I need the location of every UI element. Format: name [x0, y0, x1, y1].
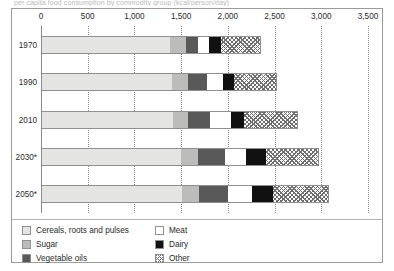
x-tick-label: 2,500: [264, 12, 285, 21]
bar-segment-veg: [199, 185, 228, 203]
legend-label: Dairy: [169, 240, 188, 249]
legend-swatch-other: [155, 254, 164, 263]
y-category-label: 1990: [19, 78, 37, 87]
y-category-label: 2030*: [16, 152, 37, 161]
legend-column-right: MeatDairyOther: [155, 224, 189, 266]
clipped-title: per capita food consumption by commodity…: [14, 0, 244, 6]
bar-segment-other: [273, 185, 329, 203]
bar-segment-dairy: [231, 111, 245, 129]
bar-segment-meat: [198, 36, 209, 54]
legend-item: Other: [155, 252, 189, 265]
x-tick-label: 1,000: [124, 12, 145, 21]
bar-segment-other: [234, 73, 277, 91]
legend-item: Meat: [155, 224, 189, 237]
bar-row: [42, 185, 369, 203]
bar-row: [42, 36, 369, 54]
legend-label: Other: [169, 254, 189, 263]
bar-segment-veg: [186, 36, 198, 54]
bar-segment-other: [266, 148, 319, 166]
bar-segment-cereals: [42, 148, 181, 166]
bar-row: [42, 111, 369, 129]
legend-swatch-cereals: [22, 226, 31, 235]
bar-segment-veg: [188, 73, 207, 91]
x-tick-label: 2,000: [218, 12, 239, 21]
bar-segment-sugar: [182, 185, 199, 203]
bar-segment-meat: [228, 185, 251, 203]
y-category-label: 1970: [19, 40, 37, 49]
x-tick-label: 3,000: [311, 12, 332, 21]
x-tick-label: 500: [81, 12, 95, 21]
bar-segment-dairy: [223, 73, 234, 91]
bar-segment-sugar: [170, 36, 186, 54]
legend-label: Sugar: [36, 240, 58, 249]
legend-swatch-veg: [22, 254, 31, 263]
bar-segment-dairy: [246, 148, 266, 166]
legend-swatch-meat: [155, 226, 164, 235]
bar-segment-cereals: [42, 36, 170, 54]
legend-item: Dairy: [155, 238, 189, 251]
bar-segment-veg: [198, 148, 225, 166]
bar-segment-dairy: [252, 185, 273, 203]
bar-segment-sugar: [173, 111, 188, 129]
bar-segment-meat: [210, 111, 231, 129]
legend-swatch-dairy: [155, 240, 164, 249]
legend-label: Vegetable oils: [36, 254, 87, 263]
legend-separator: [12, 219, 382, 220]
bar-segment-cereals: [42, 73, 172, 91]
bar-segment-sugar: [172, 73, 188, 91]
x-tick-label: 0: [39, 12, 44, 21]
legend-item: Sugar: [22, 238, 129, 251]
bar-segment-meat: [207, 73, 223, 91]
bar-segment-sugar: [181, 148, 197, 166]
bar-segment-meat: [225, 148, 246, 166]
x-tick-label: 3,500: [358, 12, 379, 21]
legend-column-left: Cereals, roots and pulsesSugarVegetable …: [22, 224, 129, 266]
bar-segment-other: [221, 36, 260, 54]
plot-area: 05001,0001,5002,0002,5003,0003,500 19701…: [41, 26, 368, 213]
bar-segment-veg: [188, 111, 209, 129]
bar-segment-other: [244, 111, 298, 129]
legend-label: Meat: [169, 226, 187, 235]
legend-label: Cereals, roots and pulses: [36, 226, 129, 235]
legend-swatch-sugar: [22, 240, 31, 249]
y-category-label: 2010: [19, 115, 37, 124]
bar-segment-dairy: [209, 36, 221, 54]
legend-item: Vegetable oils: [22, 252, 129, 265]
x-tick-label: 1,500: [171, 12, 192, 21]
bar-row: [42, 148, 369, 166]
bar-segment-cereals: [42, 185, 182, 203]
bar-segment-cereals: [42, 111, 173, 129]
legend-item: Cereals, roots and pulses: [22, 224, 129, 237]
bar-row: [42, 73, 369, 91]
chart-figure: per capita food consumption by commodity…: [0, 0, 394, 271]
y-category-label: 2050*: [16, 190, 37, 199]
